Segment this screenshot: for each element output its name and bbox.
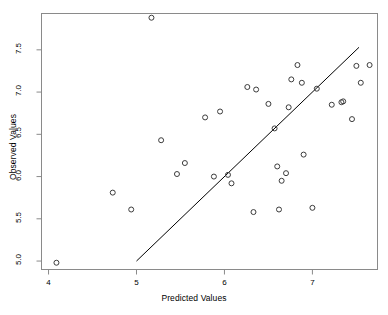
x-axis-ticks <box>49 270 313 275</box>
data-points <box>54 15 372 265</box>
x-axis-tick-label: 7 <box>300 278 324 287</box>
y-axis-tick-label: 6.0 <box>13 162 22 188</box>
plot-frame <box>42 14 378 270</box>
scatter-point <box>203 115 208 120</box>
scatter-point <box>254 87 259 92</box>
scatter-point <box>211 174 216 179</box>
scatter-point <box>299 80 304 85</box>
y-axis-ticks <box>37 50 42 261</box>
y-axis-title: Observed Values <box>8 87 18 207</box>
regression-line <box>136 47 359 261</box>
scatter-point <box>314 86 319 91</box>
x-axis-title: Predicted Values <box>0 293 388 303</box>
x-axis-tick-label: 6 <box>212 278 236 287</box>
scatter-point <box>295 63 300 68</box>
reference-line <box>136 47 359 261</box>
x-axis-tick-label: 5 <box>124 278 148 287</box>
scatter-point <box>354 63 359 68</box>
scatter-point <box>149 15 154 20</box>
y-axis-tick-label: 7.5 <box>13 35 22 61</box>
scatter-point <box>266 101 271 106</box>
scatter-point <box>229 181 234 186</box>
scatter-point <box>245 85 250 90</box>
scatter-plot-figure: Predicted Values Observed Values 4567 5.… <box>0 0 388 315</box>
scatter-point <box>286 105 291 110</box>
scatter-point <box>358 80 363 85</box>
scatter-point <box>367 63 372 68</box>
scatter-point <box>289 77 294 82</box>
scatter-point <box>310 205 315 210</box>
scatter-point <box>182 161 187 166</box>
y-axis-tick-label: 7.0 <box>13 78 22 104</box>
scatter-point <box>174 172 179 177</box>
y-axis-tick-label: 5.0 <box>13 247 22 273</box>
scatter-point <box>349 117 354 122</box>
scatter-point <box>218 109 223 114</box>
y-axis-tick-label: 5.5 <box>13 204 22 230</box>
scatter-point <box>54 260 59 265</box>
scatter-point <box>159 138 164 143</box>
x-axis-tick-label: 4 <box>37 278 61 287</box>
scatter-point <box>329 102 334 107</box>
plot-frame-border <box>42 14 378 270</box>
scatter-point <box>279 178 284 183</box>
scatter-point <box>301 152 306 157</box>
scatter-point <box>129 207 134 212</box>
scatter-point <box>284 171 289 176</box>
scatter-point <box>110 190 115 195</box>
scatter-point <box>251 210 256 215</box>
scatter-point <box>276 207 281 212</box>
chart-canvas <box>0 0 388 315</box>
y-axis-tick-label: 6.5 <box>13 120 22 146</box>
scatter-point <box>275 164 280 169</box>
scatter-point <box>341 99 346 104</box>
